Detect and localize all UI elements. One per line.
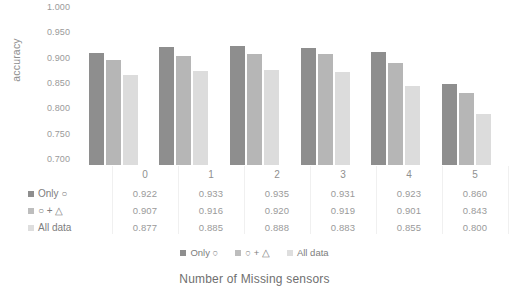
- table-cell: 0.907: [112, 205, 178, 216]
- y-axis-tick-label: 0.900: [47, 53, 70, 63]
- table-cell: 0.843: [442, 205, 508, 216]
- table-cell: 0.935: [244, 188, 310, 199]
- x-axis-category-label: 0: [112, 169, 178, 180]
- series-swatch-icon: [28, 191, 34, 197]
- table-cell: 0.919: [310, 205, 376, 216]
- bar: [264, 70, 279, 165]
- bar: [459, 93, 474, 165]
- series-swatch-icon: [28, 225, 34, 231]
- table-cell: 0.920: [244, 205, 310, 216]
- bar: [106, 60, 121, 165]
- x-axis-category-label: 1: [178, 169, 244, 180]
- table-cell: 0.855: [376, 222, 442, 233]
- bar: [230, 46, 245, 165]
- table-row-header: Only ○: [0, 188, 112, 199]
- table-cell: 0.923: [376, 188, 442, 199]
- bar: [371, 52, 386, 165]
- bar-group: [431, 13, 502, 165]
- x-axis-title: Number of Missing sensors: [0, 272, 509, 286]
- bar: [388, 63, 403, 165]
- y-axis-tick-label: 1.000: [47, 2, 70, 12]
- y-axis-tick-label: 0.700: [47, 154, 70, 164]
- table-cell: 0.883: [310, 222, 376, 233]
- bar-group: [149, 13, 220, 165]
- x-axis-category-label: 4: [376, 169, 442, 180]
- bar: [193, 71, 208, 165]
- table-row-header: ○ + △: [0, 205, 112, 216]
- table-cell: 0.877: [112, 222, 178, 233]
- table-cell: 0.888: [244, 222, 310, 233]
- series-label: ○ + △: [38, 205, 63, 216]
- table-cell: 0.916: [178, 205, 244, 216]
- y-axis-title: accuracy: [10, 15, 26, 105]
- legend-label: All data: [297, 247, 329, 258]
- bar-chart-figure: accuracy 1.0000.9500.9000.8500.8000.7500…: [0, 0, 509, 301]
- table-cell: 0.933: [178, 188, 244, 199]
- y-axis-tick-label: 0.800: [47, 103, 70, 113]
- y-axis-tick-labels: 1.0000.9500.9000.8500.8000.7500.700: [38, 8, 70, 166]
- legend-item[interactable]: All data: [287, 247, 329, 258]
- x-axis-category-label: 2: [244, 169, 310, 180]
- legend-swatch-icon: [287, 250, 293, 256]
- legend-item[interactable]: Only ○: [180, 247, 218, 258]
- y-axis-tick-label: 0.950: [47, 27, 70, 37]
- bar: [247, 54, 262, 165]
- data-table: 012345Only ○0.9220.9330.9350.9310.9230.8…: [0, 166, 509, 246]
- table-header-row: 012345: [0, 166, 509, 183]
- bar: [301, 48, 316, 165]
- bar: [442, 84, 457, 165]
- legend-label: Only ○: [190, 247, 218, 258]
- y-axis-tick-label: 0.750: [47, 129, 70, 139]
- series-label: Only ○: [38, 188, 67, 199]
- plot-area: [78, 13, 502, 165]
- bar: [476, 114, 491, 165]
- table-cell: 0.885: [178, 222, 244, 233]
- chart-legend: Only ○○ + △All data: [0, 247, 509, 258]
- bar-group: [290, 13, 361, 165]
- table-cell: 0.901: [376, 205, 442, 216]
- bar-group: [219, 13, 290, 165]
- x-axis-category-label: 5: [442, 169, 508, 180]
- table-cell: 0.931: [310, 188, 376, 199]
- table-row: Only ○0.9220.9330.9350.9310.9230.860: [0, 185, 509, 202]
- series-swatch-icon: [28, 208, 34, 214]
- table-row-header: All data: [0, 222, 112, 233]
- bar: [89, 53, 104, 165]
- table-cell: 0.800: [442, 222, 508, 233]
- legend-swatch-icon: [180, 250, 186, 256]
- table-row: ○ + △0.9070.9160.9200.9190.9010.843: [0, 202, 509, 219]
- bar: [176, 56, 191, 165]
- y-axis-tick-label: 0.850: [47, 78, 70, 88]
- bar: [405, 86, 420, 165]
- bar-group: [361, 13, 432, 165]
- bar: [123, 75, 138, 165]
- table-cell: 0.860: [442, 188, 508, 199]
- bar: [159, 47, 174, 165]
- table-cell: 0.922: [112, 188, 178, 199]
- bar: [335, 72, 350, 165]
- bar-group: [78, 13, 149, 165]
- series-label: All data: [38, 222, 71, 233]
- legend-item[interactable]: ○ + △: [235, 247, 270, 258]
- x-axis-category-label: 3: [310, 169, 376, 180]
- bar: [318, 54, 333, 165]
- legend-swatch-icon: [235, 250, 241, 256]
- table-row: All data0.8770.8850.8880.8830.8550.800: [0, 219, 509, 236]
- legend-label: ○ + △: [245, 247, 270, 258]
